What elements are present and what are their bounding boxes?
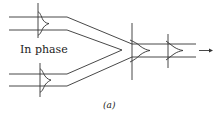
output-pulse-icon (166, 34, 183, 68)
right-arrow-icon (199, 49, 213, 53)
figure-caption: (a) (103, 100, 115, 110)
in-phase-label: In phase (20, 43, 68, 56)
output-waveguide (132, 44, 196, 57)
combined-pulse-icon (130, 23, 150, 80)
bottom-input-pulse-icon (40, 63, 51, 97)
top-input-pulse-icon (38, 3, 49, 38)
interferometer-diagram: In phase (a) (0, 0, 222, 119)
